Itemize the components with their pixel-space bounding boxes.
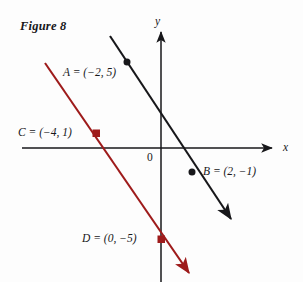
figure-title: Figure 8: [20, 20, 66, 33]
x-axis-label: x: [283, 142, 288, 154]
point-marker-c: [93, 130, 101, 138]
point-label-b: B = (2, −1): [203, 166, 256, 178]
point-marker-a: [124, 59, 131, 66]
point-marker-b: [189, 169, 196, 176]
coordinate-plane-graphic: [0, 0, 303, 282]
y-axis-label: y: [155, 16, 160, 28]
figure-canvas: Figure 8 y x 0 A = (−2, 5) C = (−4, 1) B…: [0, 0, 303, 282]
point-label-a: A = (−2, 5): [63, 67, 116, 79]
origin-label: 0: [147, 152, 153, 164]
point-label-c: C = (−4, 1): [18, 127, 72, 139]
point-marker-d: [158, 236, 166, 244]
point-label-d: D = (0, −5): [82, 233, 137, 245]
